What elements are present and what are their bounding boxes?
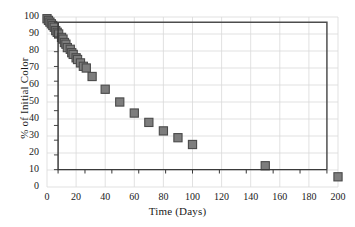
x-axis-title: Time (Days): [0, 205, 355, 217]
y-axis-title: % of Initial Color: [18, 28, 30, 168]
axis-spines: [58, 22, 327, 169]
y-tick-label: 0: [5, 180, 39, 191]
axis-frame: [47, 17, 338, 187]
plot-area: [47, 17, 338, 187]
y-tick-label: 100: [5, 10, 39, 21]
scatter-chart-figure: 020406080100120140160180200 010203040506…: [0, 0, 355, 227]
x-tick-label: 200: [318, 191, 355, 202]
chart-title: [0, 0, 1, 1]
frame-top-right: [58, 22, 327, 169]
